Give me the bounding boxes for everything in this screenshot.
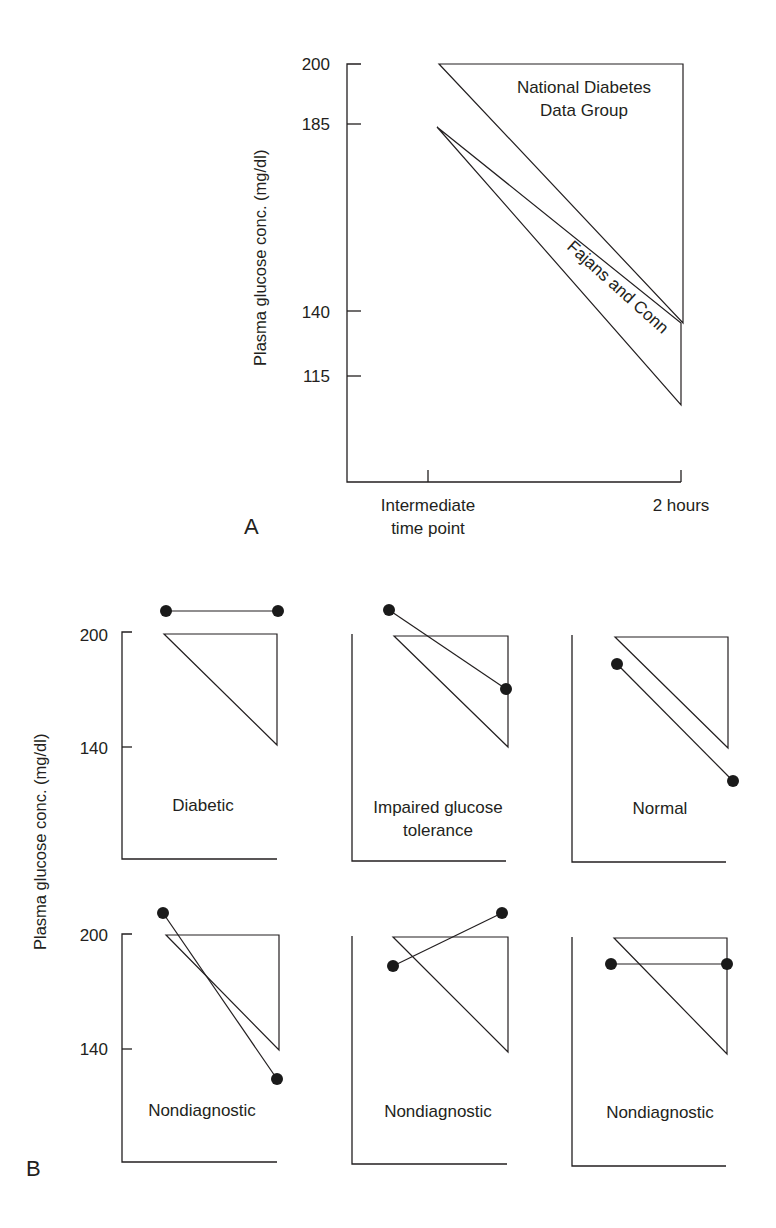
y-tick-label: 200: [80, 626, 108, 645]
threshold-triangle: [615, 637, 728, 748]
threshold-triangle: [166, 935, 279, 1050]
axes: [572, 635, 726, 862]
panel-letter: B: [26, 1156, 41, 1181]
y-tick-label: 115: [303, 367, 330, 386]
subplot-impaired-glucose-tolerance: Impaired glucose tolerance: [352, 604, 512, 861]
y-tick-label: 140: [80, 739, 108, 758]
subplot-label: Nondiagnostic: [384, 1102, 492, 1121]
subplot-label: Nondiagnostic: [148, 1101, 256, 1120]
glucose-line: [389, 610, 506, 689]
nddg-label: Data Group: [540, 101, 628, 120]
data-point: [500, 683, 512, 695]
panel-letter: A: [244, 514, 259, 539]
threshold-triangle: [393, 937, 508, 1052]
glucose-line: [393, 913, 502, 966]
panel-a-axes: [347, 64, 681, 482]
subplot-nondiagnostic-2: Nondiagnostic: [352, 907, 508, 1164]
fajans-conn-triangle: [437, 127, 681, 405]
data-point: [383, 604, 395, 616]
data-point: [387, 960, 399, 972]
subplot-normal: Normal: [572, 635, 739, 862]
data-point: [496, 907, 508, 919]
y-axis-label: Plasma glucose conc. (mg/dl): [251, 150, 269, 366]
subplot-label: Normal: [633, 799, 688, 818]
data-point: [727, 775, 739, 787]
threshold-triangle: [394, 636, 508, 747]
glucose-line: [617, 664, 733, 781]
glucose-line: [163, 913, 277, 1079]
data-point: [605, 958, 617, 970]
y-tick-label: 185: [302, 115, 330, 134]
threshold-triangle: [164, 634, 277, 745]
axes: [122, 632, 277, 859]
y-tick-label: 140: [80, 1040, 108, 1059]
y-axis-label: Plasma glucose conc. (mg/dl): [31, 734, 49, 950]
subplot-label: Impaired glucose: [373, 798, 502, 817]
x-tick-label: 2 hours: [653, 496, 710, 515]
axes: [352, 936, 507, 1164]
fajans-conn-label: Fajans and Conn: [563, 237, 672, 338]
data-point: [157, 907, 169, 919]
subplot-label: Nondiagnostic: [606, 1103, 714, 1122]
y-tick-label: 200: [80, 926, 108, 945]
y-tick-label: 200: [302, 55, 330, 74]
panel-a: 200 185 140 115 Plasma glucose conc. (mg…: [244, 55, 709, 539]
axes: [572, 937, 726, 1166]
subplot-label: tolerance: [403, 821, 473, 840]
nddg-label: National Diabetes: [517, 78, 651, 97]
data-point: [272, 605, 284, 617]
figure: 200 185 140 115 Plasma glucose conc. (mg…: [0, 0, 776, 1228]
data-point: [611, 658, 623, 670]
data-point: [721, 958, 733, 970]
y-tick-label: 140: [302, 303, 330, 322]
threshold-triangle: [614, 938, 727, 1054]
panel-b: Plasma glucose conc. (mg/dl) B 200 140 2…: [26, 604, 739, 1181]
subplot-nondiagnostic-1: Nondiagnostic: [122, 907, 283, 1162]
x-tick-label: time point: [391, 519, 465, 538]
subplot-label: Diabetic: [172, 796, 234, 815]
data-point: [160, 605, 172, 617]
subplot-diabetic: Diabetic: [122, 605, 284, 859]
axes: [122, 934, 277, 1162]
x-tick-label: Intermediate: [381, 496, 476, 515]
data-point: [271, 1073, 283, 1085]
subplot-nondiagnostic-3: Nondiagnostic: [572, 937, 733, 1166]
